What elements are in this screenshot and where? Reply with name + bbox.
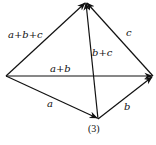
vector-diagram: a+b+c b+c c a+b a b (3) <box>0 0 156 145</box>
label-a: a <box>47 98 53 109</box>
vector-b-plus-c-arrow <box>86 3 98 119</box>
figure-caption: (3) <box>88 123 100 135</box>
vector-b-arrow <box>98 77 152 119</box>
label-a-plus-b-plus-c: a+b+c <box>8 29 43 40</box>
label-b-plus-c: b+c <box>92 47 113 58</box>
vector-a-arrow <box>6 76 97 118</box>
vector-c-arrow <box>87 3 153 76</box>
label-b: b <box>124 101 130 112</box>
label-a-plus-b: a+b <box>50 63 71 74</box>
label-c: c <box>126 27 132 38</box>
